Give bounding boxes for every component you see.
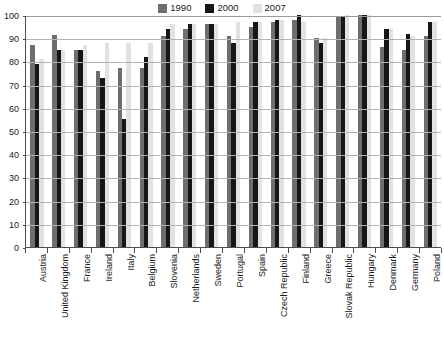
- bar-slovenia-2007: [170, 24, 174, 247]
- category-tick: [419, 248, 420, 253]
- y-tick-mark-80: [23, 62, 26, 63]
- legend-item-2007: 2007: [253, 3, 286, 13]
- legend-swatch-1990: [158, 4, 167, 13]
- y-tick-mark-40: [23, 155, 26, 156]
- category-tick: [441, 248, 442, 253]
- y-axis: 0102030405060708090100: [0, 16, 23, 248]
- legend-label-2007: 2007: [265, 3, 286, 13]
- plot-wrapper: 0102030405060708090100 AustriaUnited Kin…: [0, 16, 444, 256]
- gridline-10: [26, 225, 441, 226]
- bar-france-2007: [83, 45, 87, 247]
- x-label-cell: Greece: [310, 254, 332, 354]
- legend-item-1990: 1990: [158, 3, 191, 13]
- gridline-70: [26, 86, 441, 87]
- x-label-cell: Belgium: [134, 254, 156, 354]
- category-tick: [244, 248, 245, 253]
- y-tick-label-100: 100: [4, 12, 19, 21]
- category-tick: [310, 248, 311, 253]
- x-label-cell: United Kingdom: [47, 254, 69, 354]
- y-tick-label-90: 90: [9, 35, 19, 44]
- y-tick-mark-60: [23, 109, 26, 110]
- category-tick: [288, 248, 289, 253]
- y-tick-mark-100: [23, 16, 26, 17]
- bar-greece-2007: [323, 38, 327, 247]
- category-tick: [200, 248, 201, 253]
- x-label-cell: Slovenia: [156, 254, 178, 354]
- y-tick-label-40: 40: [9, 151, 19, 160]
- category-tick: [134, 248, 135, 253]
- bar-united-kingdom-2007: [61, 50, 65, 247]
- y-tick-label-20: 20: [9, 197, 19, 206]
- y-tick-label-50: 50: [9, 128, 19, 137]
- bar-poland-2007: [432, 22, 436, 247]
- legend-label-2000: 2000: [217, 3, 238, 13]
- y-tick-label-80: 80: [9, 58, 19, 67]
- y-tick-mark-20: [23, 202, 26, 203]
- x-label-cell: Netherlands: [178, 254, 200, 354]
- bar-hungary-2007: [367, 15, 371, 247]
- bar-slovak-republic-2007: [345, 15, 349, 247]
- chart-legend: 199020002007: [0, 1, 444, 15]
- category-tick: [332, 248, 333, 253]
- category-tick: [222, 248, 223, 253]
- y-tick-label-10: 10: [9, 220, 19, 229]
- category-tick: [156, 248, 157, 253]
- bar-finland-2007: [301, 22, 305, 247]
- x-label-cell: Germany: [397, 254, 419, 354]
- category-tick-marks: [25, 248, 441, 253]
- category-tick: [47, 248, 48, 253]
- category-tick: [397, 248, 398, 253]
- bar-italy-2007: [126, 43, 130, 247]
- x-label-cell: Finland: [288, 254, 310, 354]
- y-tick-label-30: 30: [9, 174, 19, 183]
- category-tick: [178, 248, 179, 253]
- x-label-cell: France: [69, 254, 91, 354]
- gridline-60: [26, 109, 441, 110]
- bar-portugal-2007: [236, 22, 240, 247]
- bar-belgium-2007: [148, 43, 152, 247]
- bar-austria-2007: [39, 59, 43, 247]
- plot-area: [25, 16, 441, 248]
- gridline-50: [26, 132, 441, 133]
- x-label-cell: Czech Republic: [266, 254, 288, 354]
- y-tick-label-60: 60: [9, 104, 19, 113]
- legend-item-2000: 2000: [205, 3, 238, 13]
- x-label-cell: Slovak Republic: [331, 254, 353, 354]
- gridline-30: [26, 178, 441, 179]
- legend-swatch-2000: [205, 4, 214, 13]
- x-axis-labels: AustriaUnited KingdomFranceIrelandItalyB…: [25, 254, 441, 354]
- gridline-40: [26, 155, 441, 156]
- y-tick-label-70: 70: [9, 81, 19, 90]
- x-label-cell: Austria: [25, 254, 47, 354]
- y-tick-mark-90: [23, 39, 26, 40]
- y-tick-label-0: 0: [14, 244, 19, 253]
- category-tick: [25, 248, 26, 253]
- bar-chart: 199020002007 0102030405060708090100 Aust…: [0, 0, 444, 354]
- category-tick: [113, 248, 114, 253]
- x-label-cell: Ireland: [91, 254, 113, 354]
- bar-sweden-2007: [214, 24, 218, 247]
- gridline-100: [26, 16, 441, 17]
- legend-swatch-2007: [253, 4, 262, 13]
- y-tick-mark-10: [23, 225, 26, 226]
- bar-germany-2007: [410, 36, 414, 247]
- gridline-20: [26, 202, 441, 203]
- x-label-cell: Italy: [113, 254, 135, 354]
- x-label-cell: Poland: [419, 254, 441, 354]
- category-tick: [91, 248, 92, 253]
- bar-czech-republic-2007: [279, 20, 283, 247]
- x-label-cell: Spain: [244, 254, 266, 354]
- y-tick-mark-30: [23, 178, 26, 179]
- legend-label-1990: 1990: [170, 3, 191, 13]
- gridline-90: [26, 39, 441, 40]
- category-tick: [375, 248, 376, 253]
- x-axis-label-poland: Poland: [433, 254, 442, 282]
- x-label-cell: Sweden: [200, 254, 222, 354]
- bar-netherlands-2007: [192, 24, 196, 247]
- x-label-cell: Hungary: [353, 254, 375, 354]
- category-tick: [266, 248, 267, 253]
- bar-ireland-2007: [105, 43, 109, 247]
- x-label-cell: Denmark: [375, 254, 397, 354]
- y-tick-mark-70: [23, 86, 26, 87]
- category-tick: [69, 248, 70, 253]
